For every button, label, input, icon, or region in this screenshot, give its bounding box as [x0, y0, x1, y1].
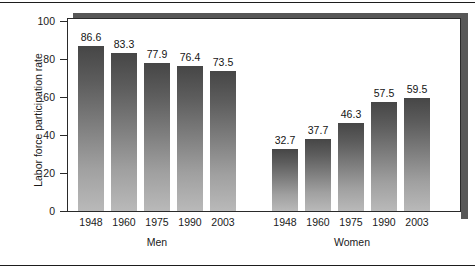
- x-axis-tick-label: 2003: [397, 216, 437, 228]
- y-axis-tick: [60, 135, 67, 136]
- y-axis-tick: [60, 21, 67, 22]
- bar-value-label: 59.5: [397, 84, 437, 95]
- y-axis-tick-label: 20: [9, 168, 55, 178]
- chart-figure: Labor force participation rate 100806040…: [0, 0, 475, 277]
- y-axis-tick-label: 100: [9, 16, 55, 26]
- y-axis-tick: [60, 59, 67, 60]
- x-axis-tick-label: 2003: [203, 216, 243, 228]
- bar: [305, 139, 331, 211]
- group-label-women: Women: [262, 236, 442, 248]
- y-axis-tick-label: 80: [9, 54, 55, 64]
- bar: [78, 46, 104, 211]
- bar: [338, 123, 364, 211]
- bar: [144, 63, 170, 211]
- y-axis-tick: [60, 173, 67, 174]
- y-axis-tick: [60, 211, 67, 212]
- bar-value-label: 46.3: [331, 109, 371, 120]
- plot-frame-right-shadow: [461, 13, 468, 219]
- bar: [371, 102, 397, 211]
- group-label-men: Men: [67, 236, 247, 248]
- y-axis-tick-label: 0: [9, 206, 55, 216]
- y-axis-tick: [60, 97, 67, 98]
- figure-top-rule: [0, 2, 475, 3]
- bar: [272, 149, 298, 211]
- y-axis-tick-label: 60: [9, 92, 55, 102]
- y-axis-title: Labor force participation rate: [32, 20, 44, 220]
- bar-value-label: 37.7: [298, 125, 338, 136]
- bar: [177, 66, 203, 211]
- bar-value-label: 32.7: [265, 135, 305, 146]
- bar: [210, 71, 236, 211]
- y-axis-tick-label: 40: [9, 130, 55, 140]
- bar: [404, 98, 430, 211]
- bar: [111, 53, 137, 211]
- bar-value-label: 73.5: [203, 57, 243, 68]
- figure-bottom-rule: [0, 265, 475, 266]
